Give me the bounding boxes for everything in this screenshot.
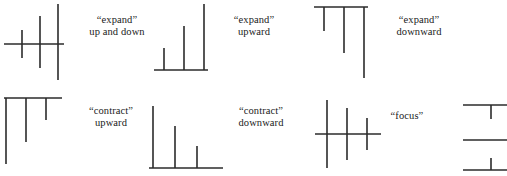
diagram-contract-upward (0, 90, 70, 176)
panel-expand-upward: “expand” upward (150, 0, 300, 88)
panel-expand-downward: “expand” downward (310, 0, 507, 88)
caption-line-1: “expand” (78, 14, 156, 26)
panel-contract-upward: “contract” upward (0, 90, 150, 176)
caption-line-1: “contract” (70, 105, 152, 117)
caption-line-2: up and down (78, 26, 156, 38)
caption-line-1: “focus” (377, 110, 437, 122)
caption-expand-upward: “expand” upward (216, 14, 292, 37)
caption-line-1: “expand” (216, 14, 292, 26)
caption-line-1: “expand” (376, 14, 462, 26)
diagram-partial-right-edge (463, 96, 507, 176)
panel-expand-up-and-down: “expand” up and down (0, 0, 160, 88)
caption-contract-upward: “contract” upward (70, 105, 152, 128)
diagram-focus (315, 90, 387, 176)
diagram-expand-upward (150, 0, 220, 88)
caption-line-2: upward (70, 117, 152, 129)
panel-partial-right-edge (463, 96, 507, 176)
caption-line-2: downward (215, 117, 307, 129)
figure-root: “expand” up and down “expand” upward (0, 0, 507, 176)
caption-line-1: “contract” (215, 105, 307, 117)
panel-focus: “focus” (315, 90, 445, 176)
diagram-expand-downward (310, 0, 380, 88)
caption-line-2: downward (376, 26, 462, 38)
caption-line-2: upward (216, 26, 292, 38)
diagram-contract-downward (145, 90, 231, 176)
caption-expand-downward: “expand” downward (376, 14, 462, 37)
panel-contract-downward: “contract” downward (145, 90, 310, 176)
caption-focus: “focus” (377, 110, 437, 122)
diagram-expand-up-and-down (0, 0, 80, 88)
caption-expand-up-and-down: “expand” up and down (78, 14, 156, 37)
caption-contract-downward: “contract” downward (215, 105, 307, 128)
